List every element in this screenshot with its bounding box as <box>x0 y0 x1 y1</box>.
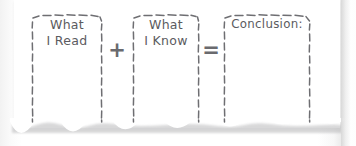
operator-plus: + <box>107 40 127 61</box>
operator-equals: = <box>201 40 221 61</box>
box-what-i-read[interactable]: What I Read <box>30 12 104 122</box>
box-label-what-i-read: What I Read <box>30 17 104 48</box>
worksheet-page: What I Read + What I Know = Conclusion: <box>0 0 356 146</box>
box-label-conclusion: Conclusion: <box>222 17 312 33</box>
box-label-what-i-know: What I Know <box>131 17 201 48</box>
box-conclusion[interactable]: Conclusion: <box>222 12 312 122</box>
scan-edge-strip <box>341 0 356 146</box>
box-what-i-know[interactable]: What I Know <box>131 12 201 122</box>
